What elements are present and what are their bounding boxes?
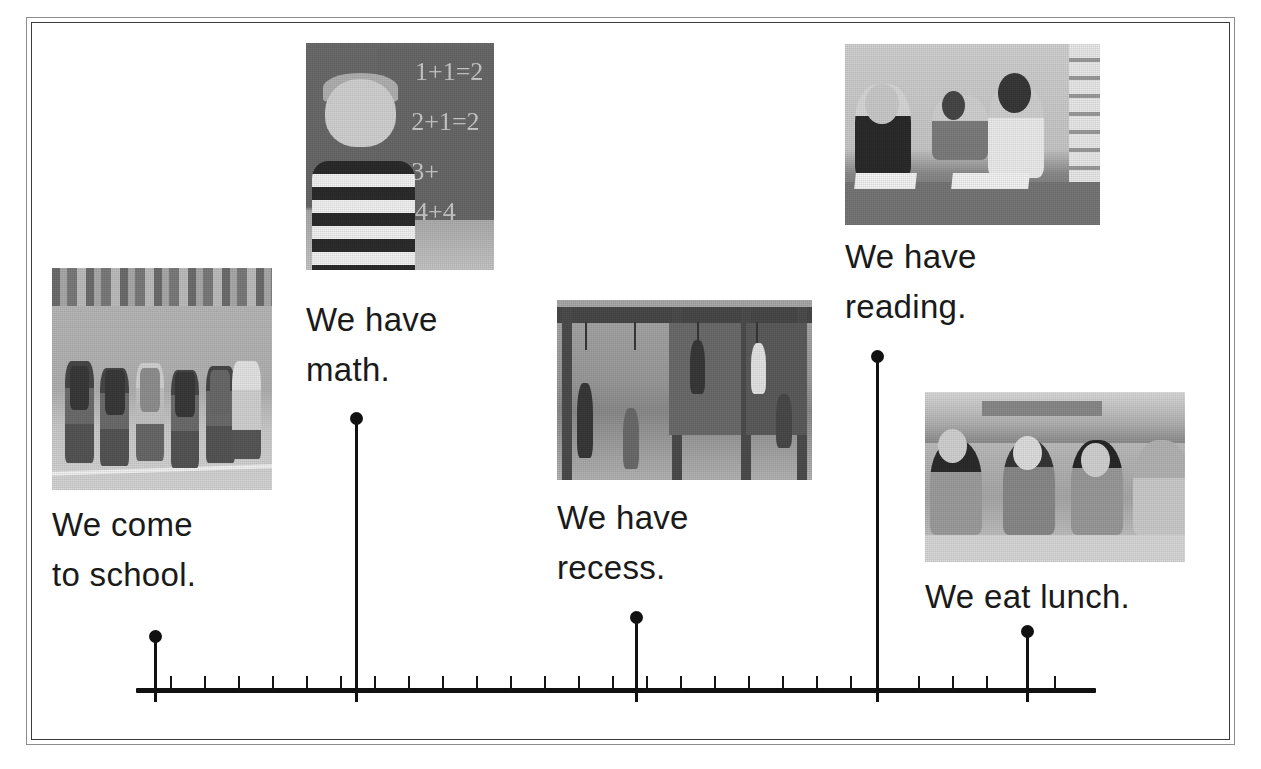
- event-label-eat-lunch: We eat lunch.: [925, 572, 1130, 622]
- event-marker-dot-have-reading[interactable]: [871, 350, 884, 363]
- event-marker-dot-come-to-school[interactable]: [149, 630, 162, 643]
- event-label-come-to-school: We come to school.: [52, 500, 196, 600]
- timeline-minor-tick: [714, 676, 716, 690]
- timeline-minor-tick: [544, 676, 546, 690]
- timeline-minor-tick: [238, 676, 240, 690]
- event-marker-stem-have-math[interactable]: [355, 418, 358, 702]
- timeline-minor-tick: [306, 676, 308, 690]
- event-marker-stem-have-reading[interactable]: [876, 356, 879, 702]
- event-marker-dot-have-math[interactable]: [350, 412, 363, 425]
- event-label-have-reading: We have reading.: [845, 232, 977, 332]
- timeline-minor-tick: [748, 676, 750, 690]
- event-marker-dot-eat-lunch[interactable]: [1021, 625, 1034, 638]
- playground-recess-photo: [557, 300, 812, 480]
- timeline-minor-tick: [408, 676, 410, 690]
- event-marker-stem-have-recess[interactable]: [635, 617, 638, 702]
- timeline-minor-tick: [476, 676, 478, 690]
- timeline-minor-tick: [850, 676, 852, 690]
- timeline-minor-tick: [442, 676, 444, 690]
- event-marker-stem-eat-lunch[interactable]: [1026, 631, 1029, 702]
- timeline-minor-tick: [680, 676, 682, 690]
- timeline-minor-tick: [952, 676, 954, 690]
- timeline-minor-tick: [510, 676, 512, 690]
- timeline-minor-tick: [272, 676, 274, 690]
- timeline-minor-tick: [170, 676, 172, 690]
- boy-at-chalkboard-math-photo: 1+1=2 2+1=2 3+ 4+4: [306, 43, 494, 270]
- event-marker-stem-come-to-school[interactable]: [154, 636, 157, 702]
- event-marker-dot-have-recess[interactable]: [630, 611, 643, 624]
- timeline-minor-tick: [646, 676, 648, 690]
- children-walking-to-school-photo: [52, 268, 272, 490]
- timeline-minor-tick: [816, 676, 818, 690]
- timeline-minor-tick: [612, 676, 614, 690]
- timeline-minor-tick: [986, 676, 988, 690]
- children-eating-lunch-photo: [925, 392, 1185, 562]
- timeline-minor-tick: [578, 676, 580, 690]
- timeline-minor-tick: [340, 676, 342, 690]
- timeline-minor-tick: [204, 676, 206, 690]
- timeline-minor-tick: [918, 676, 920, 690]
- timeline-minor-tick: [374, 676, 376, 690]
- timeline-minor-tick: [782, 676, 784, 690]
- event-label-have-recess: We have recess.: [557, 493, 689, 593]
- timeline-minor-tick: [1054, 676, 1056, 690]
- event-label-have-math: We have math.: [306, 295, 438, 395]
- timeline-worksheet-canvas: 1+1=2 2+1=2 3+ 4+4: [0, 0, 1261, 769]
- students-reading-books-photo: [845, 44, 1100, 225]
